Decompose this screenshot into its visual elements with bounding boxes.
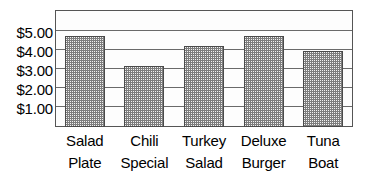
- x-tick-label-line: Boat: [293, 152, 353, 174]
- bar-chili-special: [124, 66, 164, 127]
- bar-salad-plate: [65, 36, 105, 127]
- x-axis: SaladPlateChiliSpecialTurkeySaladDeluxeB…: [55, 130, 353, 178]
- y-tick-label: $2.00: [1, 81, 53, 96]
- x-tick-label-line: Plate: [55, 152, 115, 174]
- x-tick-label-line: Salad: [174, 152, 234, 174]
- y-tick-label: $4.00: [1, 43, 53, 58]
- x-tick-label-line: Tuna: [293, 130, 353, 152]
- x-tick-label-salad-plate: SaladPlate: [55, 130, 115, 174]
- x-tick-label-line: Deluxe: [234, 130, 294, 152]
- x-tick-label-turkey-salad: TurkeySalad: [174, 130, 234, 174]
- x-tick-label-deluxe-burger: DeluxeBurger: [234, 130, 294, 174]
- x-tick-label-line: Burger: [234, 152, 294, 174]
- bars-layer: [55, 10, 353, 127]
- x-tick-label-line: Chili: [115, 130, 175, 152]
- bar-chart: $1.00$2.00$3.00$4.00$5.00 SaladPlateChil…: [0, 0, 365, 180]
- x-tick-label-chili-special: ChiliSpecial: [115, 130, 175, 174]
- x-tick-label-line: Turkey: [174, 130, 234, 152]
- y-tick-label: $3.00: [1, 62, 53, 77]
- y-tick-label: $5.00: [1, 24, 53, 39]
- x-tick-label-line: Salad: [55, 130, 115, 152]
- y-axis: $1.00$2.00$3.00$4.00$5.00: [0, 0, 53, 180]
- bar-turkey-salad: [184, 46, 224, 127]
- y-tick-label: $1.00: [1, 100, 53, 115]
- x-tick-label-line: Special: [115, 152, 175, 174]
- x-tick-label-tuna-boat: TunaBoat: [293, 130, 353, 174]
- bar-deluxe-burger: [244, 36, 284, 127]
- bar-tuna-boat: [303, 51, 343, 127]
